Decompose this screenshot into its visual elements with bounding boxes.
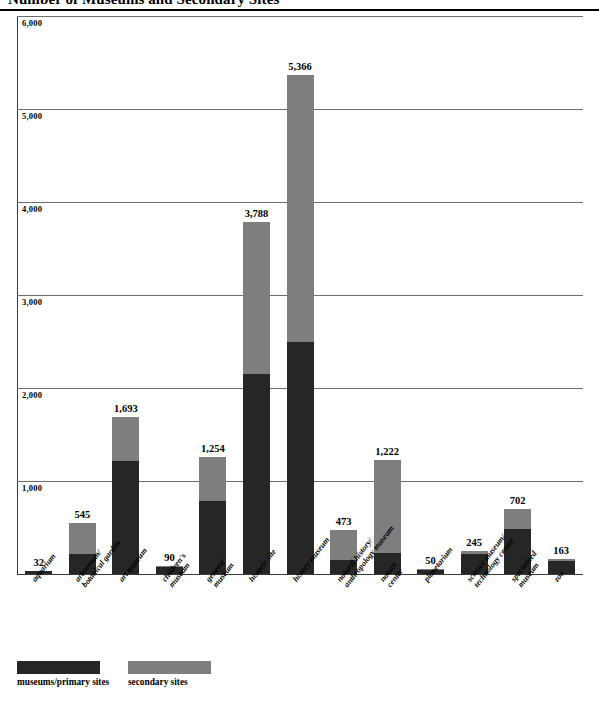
legend-swatch: [128, 661, 211, 674]
title-divider: [0, 9, 599, 11]
legend-label: secondary sites: [128, 677, 188, 687]
chart-title: Number of Museums and Secondary Sites: [8, 0, 279, 8]
bar-segment-secondary: [504, 509, 531, 530]
bar-value-label: 545: [74, 509, 90, 520]
bar-value-label: 245: [466, 537, 482, 548]
x-axis-labels: aquariumarboretum/ botanical gardenart m…: [17, 578, 583, 648]
bar-segment-secondary: [199, 457, 226, 500]
bar-value-label: 473: [336, 516, 352, 527]
bar-segment-primary: [287, 342, 314, 575]
legend-swatch: [17, 661, 100, 674]
bar-value-label: 5,366: [288, 61, 312, 72]
bar-value-label: 163: [553, 545, 569, 556]
bar-value-label: 702: [510, 495, 526, 506]
bar: [287, 75, 314, 574]
chart-figure: Number of Museums and Secondary Sites 6,…: [0, 0, 599, 702]
bar-segment-secondary: [287, 75, 314, 342]
bar-segment-primary: [243, 374, 270, 574]
bar-value-label: 1,254: [201, 443, 225, 454]
bar-series-group: 325451,693901,2543,7885,3664731,22250245…: [17, 16, 583, 574]
bar-segment-secondary: [69, 523, 96, 554]
bar: [243, 222, 270, 574]
bar-segment-secondary: [243, 222, 270, 374]
bar-segment-secondary: [112, 417, 139, 462]
bar-value-label: 1,222: [375, 446, 399, 457]
chart-legend: museums/primary sitessecondary sites: [0, 655, 599, 702]
legend-label: museums/primary sites: [17, 677, 109, 687]
bar-value-label: 3,788: [245, 208, 269, 219]
bar-value-label: 1,693: [114, 403, 138, 414]
bar: [374, 460, 401, 574]
